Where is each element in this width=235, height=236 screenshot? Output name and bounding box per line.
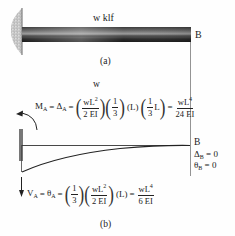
shear-equation: VA = θA = ( 1 3 ) ( wL2 2 EI ) (L) = wL4… xyxy=(27,183,155,205)
caption-b: (b) xyxy=(100,220,111,230)
fraction-wl2-2ei-v: wL2 2 EI xyxy=(91,183,107,205)
fraction-one-third: 1 3 xyxy=(112,97,118,117)
fixed-support-b xyxy=(19,129,23,161)
caption-a: (a) xyxy=(100,57,111,67)
end-label-b-a: B xyxy=(195,30,202,40)
fraction-one-third-2: 1 3 xyxy=(147,97,153,117)
deflection-condition: ΔB = 0 xyxy=(194,150,218,160)
moment-arrow-icon xyxy=(16,111,37,131)
end-label-b-b: B xyxy=(194,138,200,148)
moment-equation: MA = ΔA = ( wL2 2 EI ) ( 1 3 ) (L) ( 1 3… xyxy=(35,96,195,118)
fraction-result-shear: wL4 6 EI xyxy=(138,183,154,205)
slope-condition: θB = 0 xyxy=(194,161,216,171)
fraction-one-third-v: 1 3 xyxy=(71,184,77,204)
shear-arrow-icon xyxy=(19,177,24,197)
moment-diagram-curve xyxy=(22,145,190,172)
fixed-support-a xyxy=(11,8,22,55)
load-label-w: w xyxy=(93,80,100,90)
fraction-result-moment: wL4 24 EI xyxy=(176,96,195,118)
fraction-wl2-2ei: wL2 2 EI xyxy=(82,96,98,118)
distributed-load-label: w klf xyxy=(93,13,114,23)
cantilever-beam-a xyxy=(22,27,191,42)
